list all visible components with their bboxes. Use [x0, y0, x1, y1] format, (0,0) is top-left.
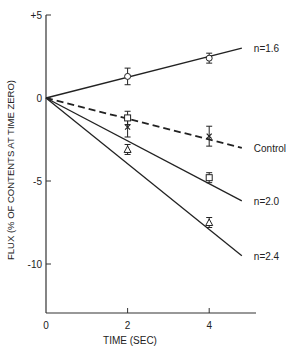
x-axis-label: TIME (SEC) — [103, 335, 157, 346]
triangle-marker-icon — [124, 146, 131, 153]
series-label: n=2.0 — [254, 196, 280, 207]
axes: +50-5-10024 — [28, 10, 256, 331]
series-n-1-6: n=1.6 — [46, 43, 280, 98]
x-tick-label: 2 — [125, 320, 131, 331]
circle-marker-icon — [206, 55, 212, 61]
series-line — [46, 98, 242, 201]
y-tick-label: 0 — [36, 93, 42, 104]
triangle-marker-icon — [206, 219, 213, 226]
series-label: n=1.6 — [254, 43, 280, 54]
y-tick-label: -5 — [33, 176, 42, 187]
square-marker-icon — [125, 115, 131, 121]
square-marker-icon — [206, 175, 212, 181]
series-n-2-4: n=2.4 — [46, 98, 280, 262]
series-label: n=2.4 — [254, 251, 280, 262]
series-n-2-0: n=2.0 — [46, 98, 280, 207]
series-control: Control — [46, 98, 286, 154]
series-label: Control — [254, 143, 286, 154]
series-line — [46, 98, 242, 148]
y-axis-label: FLUX (% OF CONTENTS AT TIME ZERO) — [5, 80, 16, 260]
series-line — [46, 48, 242, 98]
series-layer: n=1.6Controln=2.0n=2.4 — [46, 43, 286, 262]
y-tick-label: -10 — [28, 259, 43, 270]
y-tick-label: +5 — [31, 10, 43, 21]
circle-marker-icon — [125, 73, 131, 79]
x-tick-label: 4 — [206, 320, 212, 331]
x-tick-label: 0 — [43, 320, 49, 331]
flux-chart: +50-5-10024 n=1.6Controln=2.0n=2.4 TIME … — [0, 0, 288, 352]
